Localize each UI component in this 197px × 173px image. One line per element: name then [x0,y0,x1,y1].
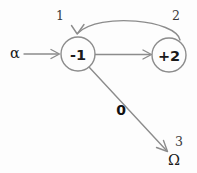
terminal-index-3: 3 [175,134,183,149]
edge-node1-to-node2 [95,50,152,59]
edge-back-curve [78,21,180,40]
terminal-alpha-label: α [10,45,20,61]
edge-weight-omega: 0 [116,102,126,118]
edge-node2-to-node1 [72,21,181,40]
terminal-omega-label: Ω [168,152,180,168]
edge-node1-to-omega [89,67,168,152]
diagram-canvas: -1 +2 1 2 3 α Ω 0 [0,0,197,173]
diagram-svg: -1 +2 1 2 3 α Ω 0 [0,0,197,173]
node-index-2: 2 [172,8,180,23]
node-index-1: 1 [56,8,64,23]
edge-alpha-to-node1 [24,50,60,59]
edge-omega-line [89,67,166,150]
node-label-1: -1 [70,47,86,63]
node-label-2: +2 [158,48,180,64]
